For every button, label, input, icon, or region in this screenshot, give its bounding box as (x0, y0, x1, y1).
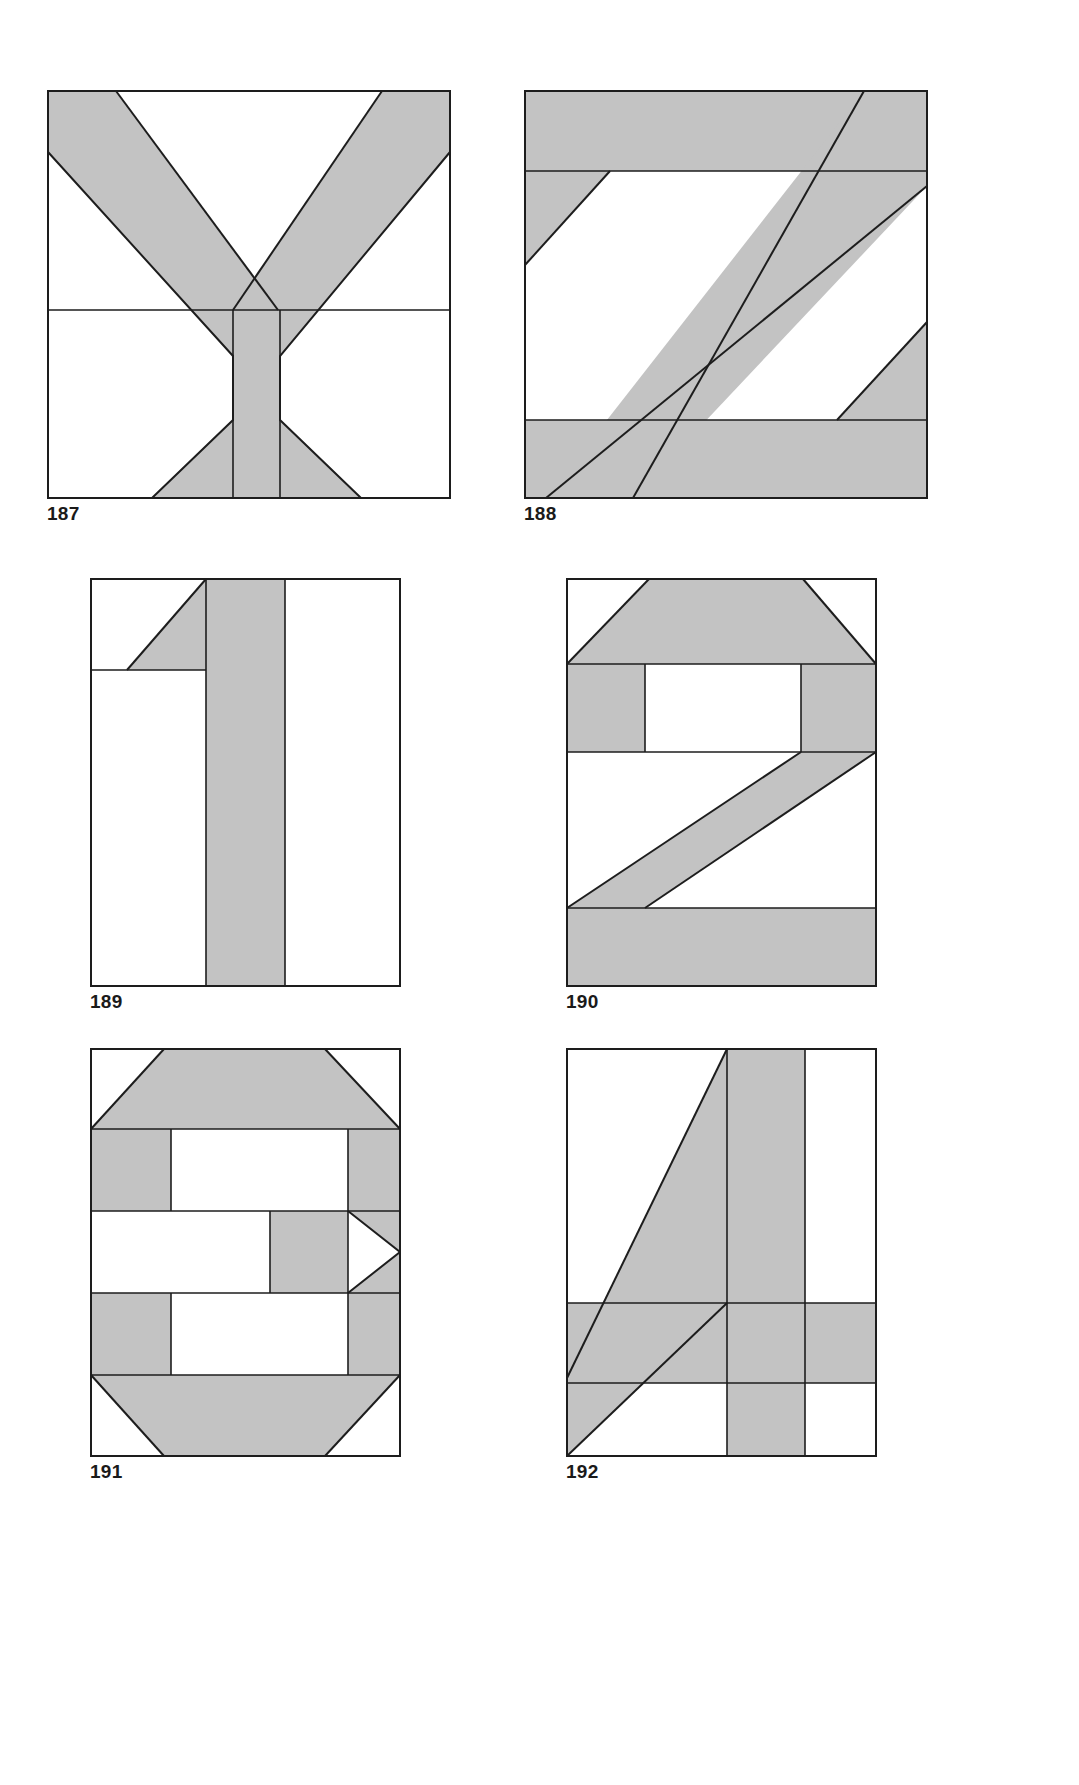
figure-190-block-two (566, 578, 877, 987)
figure-190-svg (566, 578, 877, 987)
three-row2-middle-bar (270, 1211, 348, 1293)
quilt-pattern-page: 187 188 (0, 0, 1079, 1785)
figure-caption-191: 191 (90, 1462, 123, 1481)
one-stem (206, 579, 285, 986)
figure-192-svg (566, 1048, 877, 1457)
three-row1-left-bar (91, 1129, 171, 1211)
figure-189-block-one (90, 578, 401, 987)
figure-caption-190: 190 (566, 992, 599, 1011)
figure-192-block-four (566, 1048, 877, 1457)
figure-191-block-three (90, 1048, 401, 1457)
figure-caption-188: 188 (524, 504, 557, 523)
figure-caption-192: 192 (566, 1462, 599, 1481)
figure-caption-187: 187 (47, 504, 80, 523)
figure-188-block-z (524, 90, 928, 499)
figure-188-svg (524, 90, 928, 499)
figure-187-block-y (47, 90, 451, 499)
three-row1-right-bar (348, 1129, 400, 1211)
figure-187-svg (47, 90, 451, 499)
z-bottom-bar (525, 420, 927, 498)
four-crossbar (567, 1303, 876, 1383)
two-right-side-bar (801, 664, 876, 752)
figure-189-svg (90, 578, 401, 987)
figure-caption-189: 189 (90, 992, 123, 1011)
figure-191-svg (90, 1048, 401, 1457)
y-stem (233, 310, 280, 498)
three-row3-right-bar (348, 1293, 400, 1375)
two-left-side-bar (567, 664, 645, 752)
three-row3-left-bar (91, 1293, 171, 1375)
four-stem (727, 1049, 805, 1456)
two-bottom-bar (567, 908, 876, 986)
